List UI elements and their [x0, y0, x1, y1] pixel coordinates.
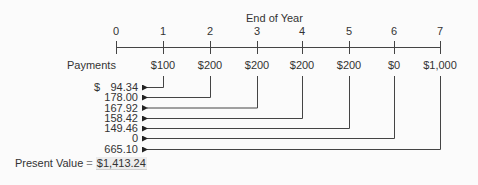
- arrow-year-2: [147, 76, 211, 98]
- arrow-year-6: [147, 76, 395, 139]
- arrow-year-1: [147, 76, 164, 88]
- arrow-year-5: [147, 76, 350, 129]
- timeline-lines: [0, 0, 478, 185]
